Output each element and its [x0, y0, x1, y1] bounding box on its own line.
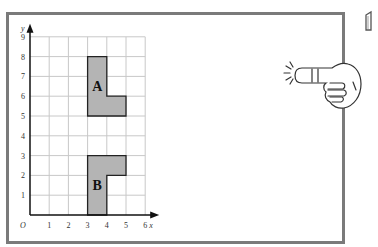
y-tick-label: 6 [21, 92, 25, 101]
x-tick-label: 6 [143, 221, 147, 230]
x-tick-label: 2 [66, 221, 70, 230]
axis-labels: 123456123456789Oxy [20, 24, 153, 230]
coordinate-grid: AB 123456123456789Oxy [0, 0, 378, 247]
y-tick-label: 9 [21, 33, 25, 42]
y-axis-label: y [20, 24, 25, 33]
origin-label: O [20, 221, 26, 230]
y-tick-label: 1 [21, 191, 25, 200]
y-axis-arrow-icon [27, 24, 34, 33]
x-tick-label: 3 [86, 221, 90, 230]
x-tick-label: 5 [124, 221, 128, 230]
y-tick-label: 2 [21, 171, 25, 180]
x-tick-label: 4 [105, 221, 109, 230]
page-curl-icon [363, 10, 375, 32]
x-axis-label: x [148, 221, 153, 230]
y-tick-label: 4 [21, 132, 25, 141]
y-tick-label: 8 [21, 53, 25, 62]
y-tick-label: 7 [21, 72, 25, 81]
shape-label-a: A [92, 79, 103, 94]
pointing-hand-icon [282, 56, 362, 116]
x-tick-label: 1 [47, 221, 51, 230]
shape-label-b: B [93, 178, 102, 193]
x-axis-arrow-icon [150, 212, 159, 219]
y-tick-label: 3 [21, 152, 25, 161]
y-tick-label: 5 [21, 112, 25, 121]
